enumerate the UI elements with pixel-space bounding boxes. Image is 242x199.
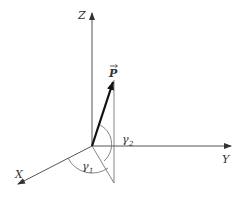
y-axis-label: Y — [222, 153, 231, 166]
direction-angle-diagram: Z Y X P γ 2 γ 1 — [0, 0, 242, 199]
z-axis-label: Z — [77, 9, 86, 22]
svg-text:P: P — [108, 67, 118, 80]
gamma2-label: γ 2 — [122, 133, 134, 148]
svg-text:1: 1 — [89, 167, 93, 175]
x-axis-label: X — [14, 168, 24, 181]
x-axis — [18, 146, 92, 184]
svg-text:γ: γ — [122, 133, 129, 146]
gamma2-arc — [98, 124, 112, 161]
gamma1-label: γ 1 — [82, 160, 93, 175]
svg-text:γ: γ — [82, 160, 89, 173]
svg-text:2: 2 — [128, 140, 134, 148]
vector-p-label: P — [108, 65, 118, 81]
